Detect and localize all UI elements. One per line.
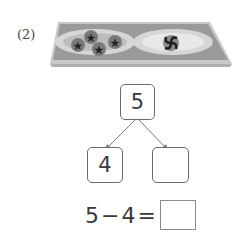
equation-answer-box[interactable] [160, 200, 196, 230]
whole-value: 5 [131, 90, 144, 114]
number-bond-part-right-answer-box[interactable] [152, 147, 189, 183]
number-bond-part-left: 4 [87, 147, 123, 183]
minus-sign: − [101, 203, 119, 228]
equals-sign: = [137, 203, 155, 228]
subtraction-equation: 5 − 4 = [85, 200, 196, 230]
part-left-value: 4 [98, 153, 111, 177]
operand-1: 5 [85, 203, 99, 228]
number-bond-whole: 5 [120, 84, 155, 120]
operand-2: 4 [121, 203, 135, 228]
